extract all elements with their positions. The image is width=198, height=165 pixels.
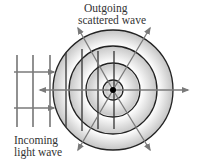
incoming-wavefronts bbox=[17, 55, 50, 127]
scatterer-dot bbox=[110, 87, 116, 93]
outgoing-label-line-1: Outgoing bbox=[82, 2, 146, 14]
incoming-label-line-2: light wave bbox=[14, 146, 62, 158]
incoming-label-line-1: Incoming bbox=[14, 134, 62, 146]
incoming-wave-label: Incoming light wave bbox=[14, 134, 62, 158]
outgoing-wave-label: Outgoing scattered wave bbox=[82, 2, 146, 26]
outgoing-label-line-2: scattered wave bbox=[78, 14, 146, 26]
